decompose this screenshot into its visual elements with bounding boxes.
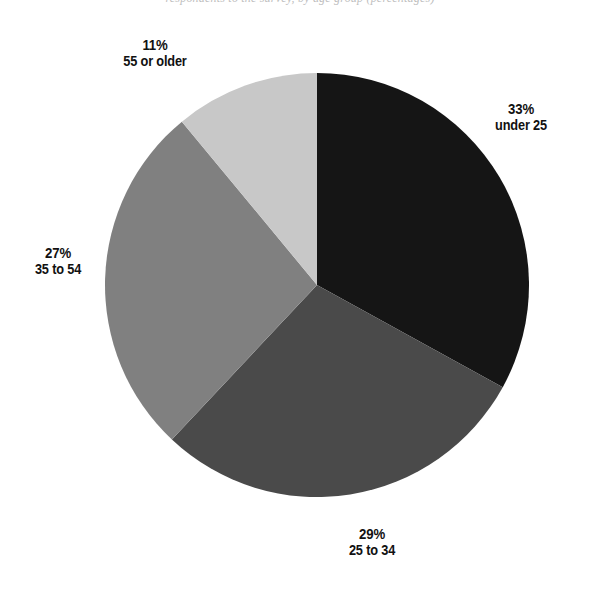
pie-label-25-to-34-percent: 29%	[310, 525, 433, 542]
pie-label-under-25: 33% under 25	[464, 100, 578, 134]
pie-label-35-to-54-percent: 27%	[9, 244, 108, 261]
pie-label-35-to-54: 27% 35 to 54	[9, 244, 108, 278]
pie-label-under-25-category: under 25	[464, 117, 578, 134]
pie-chart-svg	[0, 0, 600, 601]
pie-label-25-to-34: 29% 25 to 34	[310, 525, 433, 559]
pie-chart-plot-area	[0, 0, 600, 601]
pie-label-35-to-54-category: 35 to 54	[9, 261, 108, 278]
pie-label-under-25-percent: 33%	[464, 100, 578, 117]
pie-label-55-or-older-category: 55 or older	[98, 53, 212, 70]
pie-label-55-or-older-percent: 11%	[98, 36, 212, 53]
pie-slice-group	[105, 73, 529, 497]
pie-label-55-or-older: 11% 55 or older	[98, 36, 212, 70]
pie-chart-figure: respondents to the survey, by age group …	[0, 0, 600, 601]
pie-label-25-to-34-category: 25 to 34	[310, 542, 433, 559]
